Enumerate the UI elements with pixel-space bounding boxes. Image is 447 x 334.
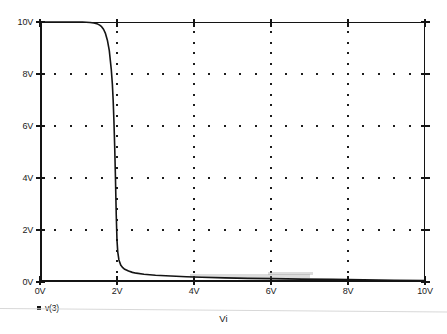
y-tick-label: 8V (0, 69, 33, 79)
x-tick-label: 2V (97, 286, 137, 296)
spice-plot-figure: 0V2V4V6V8V10V 0V2V4V6V8V10V v(3) Vi (0, 0, 447, 334)
y-tick-label: 0V (0, 277, 33, 287)
x-tick-label: 10V (405, 286, 445, 296)
curve-v3 (40, 22, 425, 282)
x-axis-title: Vi (0, 313, 447, 324)
y-tick-label: 4V (0, 173, 33, 183)
x-tick-label: 8V (328, 286, 368, 296)
scan-separator-rule (0, 308, 447, 313)
y-tick-label: 6V (0, 121, 33, 131)
x-tick-label: 4V (174, 286, 214, 296)
x-tick-label: 6V (251, 286, 291, 296)
plot-area: 0V2V4V6V8V10V (40, 22, 425, 282)
y-tick-label: 10V (0, 17, 33, 27)
x-tick-label: 0V (20, 286, 60, 296)
y-tick-label: 2V (0, 225, 33, 235)
